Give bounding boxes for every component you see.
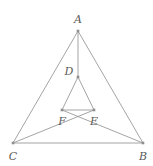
vertex-marker-e [93, 109, 96, 112]
vertex-marker-a [77, 30, 80, 33]
vertex-marker-f [61, 109, 64, 112]
vertex-label-d: D [65, 66, 74, 77]
segment-BF [62, 110, 143, 143]
vertex-marker-d [77, 76, 80, 79]
geometry-figure: ADFECB [0, 0, 153, 166]
vertex-label-c: C [9, 151, 17, 162]
vertex-label-a: A [74, 14, 82, 25]
vertex-label-f: F [58, 116, 66, 127]
segments-layer [13, 31, 143, 143]
vertex-label-b: B [139, 151, 147, 162]
vertex-marker-c [12, 142, 15, 145]
segment-CE [13, 110, 94, 143]
segment-AC [13, 31, 78, 143]
segment-DF [62, 77, 78, 110]
vertex-label-e: E [90, 116, 98, 127]
segment-AB [78, 31, 143, 143]
vertex-marker-b [142, 142, 145, 145]
segment-DE [78, 77, 94, 110]
